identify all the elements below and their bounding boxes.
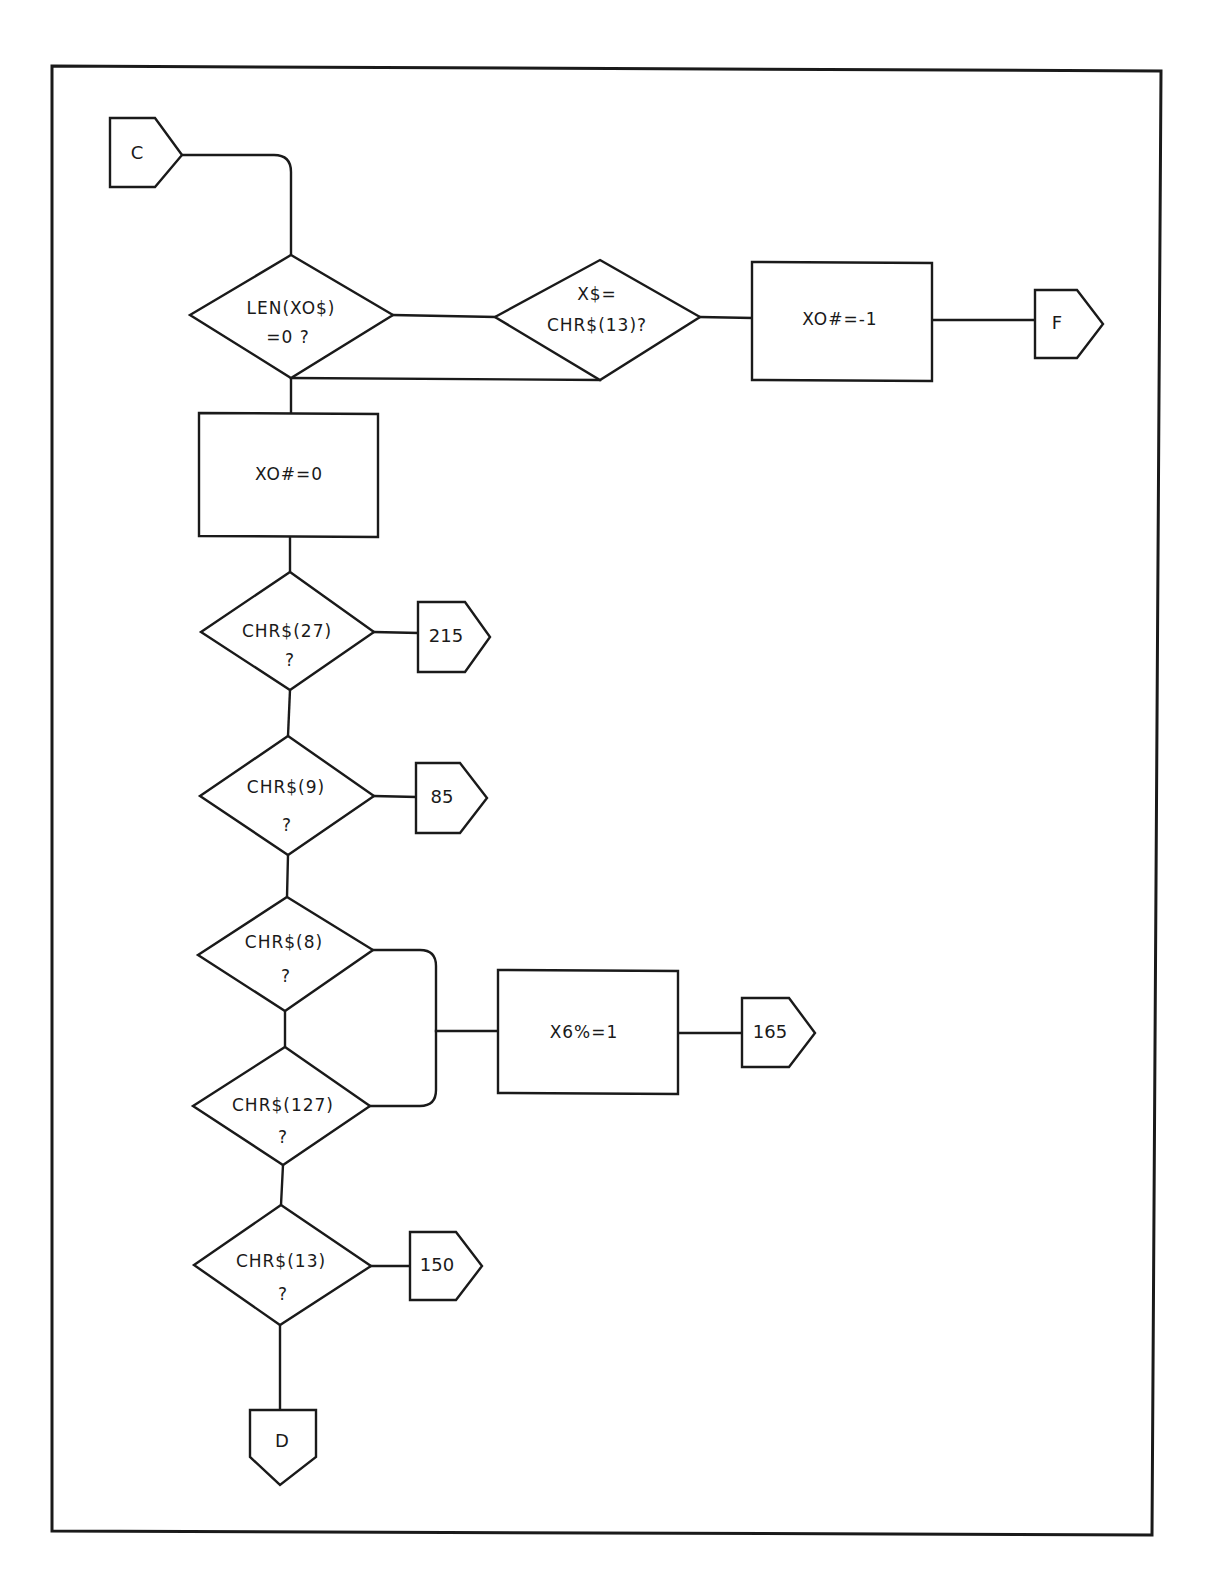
flowchart-canvas: C F 215 85 165 150 D LEN(XO$) =0 ? X$= C… — [0, 0, 1210, 1584]
line-join-bottom — [291, 378, 600, 380]
decision-chr13-line1: CHR$(13) — [236, 1251, 326, 1271]
connector-85: 85 — [416, 763, 487, 833]
line-chr9-to-85 — [374, 796, 416, 797]
process-x0-neg1: XO#=-1 — [752, 262, 932, 381]
decision-chr127-line2: ? — [278, 1127, 288, 1147]
decision-len-x0-line1: LEN(XO$) — [247, 298, 336, 318]
decision-chr8-line1: CHR$(8) — [245, 932, 323, 952]
decision-x-eq-cr: X$= CHR$(13)? — [495, 260, 700, 380]
decision-chr13-line2: ? — [278, 1284, 288, 1304]
line-len-to-xcr — [393, 315, 495, 317]
decision-chr27: CHR$(27) ? — [201, 572, 374, 690]
connector-c-label: C — [131, 142, 144, 163]
decision-len-x0: LEN(XO$) =0 ? — [190, 255, 393, 378]
decision-chr13: CHR$(13) ? — [194, 1205, 371, 1325]
decision-chr27-line2: ? — [285, 650, 295, 670]
decision-chr127-line1: CHR$(127) — [232, 1095, 334, 1115]
process-x6-one: X6%=1 — [498, 970, 678, 1094]
decision-x-eq-cr-line1: X$= — [577, 284, 617, 304]
connector-165-label: 165 — [753, 1021, 787, 1042]
decision-chr9-line2: ? — [282, 815, 292, 835]
process-x6-one-label: X6%=1 — [550, 1022, 619, 1042]
connector-165: 165 — [742, 998, 815, 1067]
connector-85-label: 85 — [431, 786, 454, 807]
decision-chr9-line1: CHR$(9) — [247, 777, 325, 797]
connector-215: 215 — [418, 602, 490, 672]
connector-f-label: F — [1052, 312, 1062, 333]
connector-150-label: 150 — [420, 1254, 454, 1275]
decision-chr27-line1: CHR$(27) — [242, 621, 332, 641]
line-bracket-chr8-chr127 — [370, 950, 436, 1106]
connector-150: 150 — [410, 1232, 482, 1300]
line-chr9-to-chr8 — [287, 855, 288, 897]
connector-d: D — [250, 1410, 316, 1485]
line-chr27-to-215 — [374, 632, 418, 633]
decision-chr8: CHR$(8) ? — [198, 897, 373, 1011]
process-x0-zero-label: XO#=0 — [255, 464, 323, 484]
decision-chr127: CHR$(127) ? — [193, 1047, 370, 1165]
line-c-to-len — [182, 155, 291, 255]
process-x0-zero: XO#=0 — [199, 413, 378, 537]
connector-f: F — [1035, 290, 1103, 358]
process-x0-neg1-label: XO#=-1 — [802, 309, 877, 329]
line-xcr-to-box — [700, 317, 752, 318]
decision-x-eq-cr-line2: CHR$(13)? — [547, 315, 647, 335]
decision-len-x0-line2: =0 ? — [266, 327, 310, 347]
line-chr27-to-chr9 — [288, 690, 290, 736]
connector-215-label: 215 — [429, 625, 463, 646]
decision-chr8-line2: ? — [281, 966, 291, 986]
connector-d-label: D — [275, 1430, 289, 1451]
connector-c: C — [110, 118, 182, 187]
line-chr127-to-chr13 — [281, 1165, 283, 1205]
decision-chr9: CHR$(9) ? — [200, 736, 374, 855]
